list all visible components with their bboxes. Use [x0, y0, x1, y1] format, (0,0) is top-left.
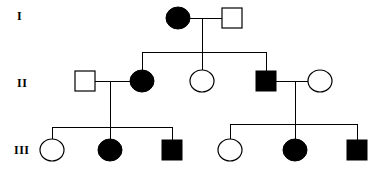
generation-label-3: III: [14, 144, 30, 156]
individual-III-4-female-unaffected[interactable]: [218, 139, 242, 161]
generation-label-2: II: [17, 77, 27, 89]
individual-III-6-male-affected[interactable]: [347, 140, 367, 160]
generation-label-1: I: [17, 10, 22, 22]
individual-II-3-female-unaffected[interactable]: [190, 70, 214, 92]
individual-III-3-male-affected[interactable]: [162, 140, 182, 160]
individual-II-5-female-unaffected[interactable]: [308, 70, 332, 92]
individual-III-1-female-unaffected[interactable]: [40, 139, 64, 161]
generation-III-group: [40, 139, 367, 161]
individual-III-2-female-affected[interactable]: [98, 139, 122, 161]
individual-II-1-male-unaffected[interactable]: [75, 71, 95, 91]
pedigree-diagram: [0, 0, 377, 170]
individual-I-2-male-unaffected[interactable]: [222, 8, 242, 28]
pedigree-chart: I II III: [0, 0, 377, 170]
individual-II-2-female-affected[interactable]: [130, 70, 154, 92]
individual-II-4-male-affected[interactable]: [256, 71, 276, 91]
individual-III-5-female-affected[interactable]: [283, 139, 307, 161]
individual-I-1-female-affected[interactable]: [166, 7, 190, 29]
